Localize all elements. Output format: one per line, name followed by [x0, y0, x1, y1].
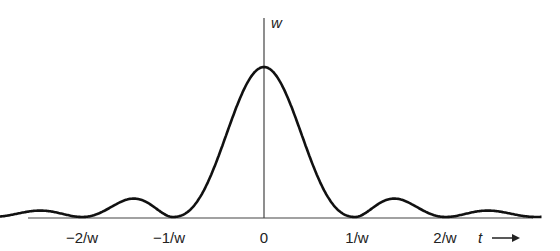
- tick-label-neg2: −2/w: [66, 229, 98, 246]
- y-axis-label: w: [271, 14, 283, 31]
- arrow-right-icon: [492, 234, 520, 242]
- x-axis-label: t: [478, 229, 483, 246]
- tick-label-pos1: 1/w: [345, 229, 369, 246]
- sinc-squared-curve: [0, 67, 541, 217]
- chart: w −2/w −1/w 0 1/w 2/w t: [0, 0, 560, 251]
- tick-label-pos2: 2/w: [433, 229, 457, 246]
- tick-label-zero: 0: [260, 229, 268, 246]
- tick-label-neg1: −1/w: [153, 229, 185, 246]
